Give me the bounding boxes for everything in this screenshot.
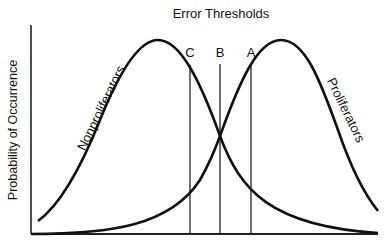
curve-label-nonproliferators: Nonproliferators xyxy=(74,63,128,153)
y-axis-label: Probability of Occurrence xyxy=(6,60,20,200)
threshold-label-c: C xyxy=(185,45,194,60)
chart-title: Error Thresholds xyxy=(173,6,270,21)
threshold-diagram: Error Thresholds Probability of Occurren… xyxy=(0,0,385,245)
threshold-label-b: B xyxy=(216,45,225,60)
